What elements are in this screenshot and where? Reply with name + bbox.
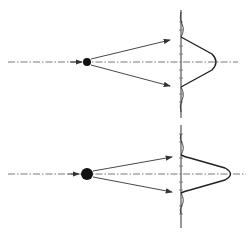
panel-large-particle: [8, 125, 246, 228]
large-particle: [81, 168, 93, 180]
panel-small-particle: [8, 10, 238, 118]
diffracted-ray-down: [93, 177, 172, 192]
small-particle: [83, 58, 91, 66]
diffracted-ray-up: [93, 157, 172, 171]
diffracted-ray-up: [91, 40, 170, 59]
diffraction-diagram: [0, 0, 248, 239]
diffracted-ray-down: [91, 65, 170, 86]
